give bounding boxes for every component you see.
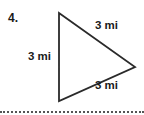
dotted-divider bbox=[0, 111, 144, 113]
side-label-left: 3 mi bbox=[28, 51, 51, 63]
side-label-top: 3 mi bbox=[95, 20, 118, 32]
side-label-bottom: 3 mi bbox=[95, 80, 118, 92]
triangle-diagram bbox=[0, 0, 144, 115]
